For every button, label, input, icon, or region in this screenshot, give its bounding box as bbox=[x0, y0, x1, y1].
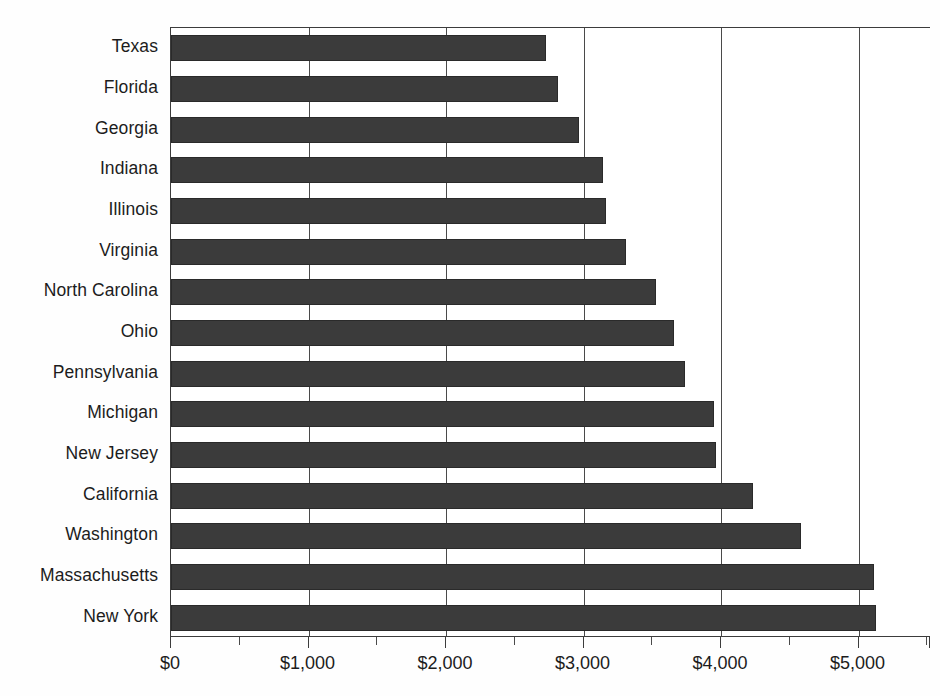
y-axis-label: Virginia bbox=[0, 242, 158, 260]
bar bbox=[171, 117, 579, 143]
bar bbox=[171, 76, 558, 102]
y-axis-label: Massachusetts bbox=[0, 567, 158, 585]
y-axis-label: Indiana bbox=[0, 160, 158, 178]
bar bbox=[171, 401, 714, 427]
bar bbox=[171, 239, 626, 265]
x-axis-label: $4,000 bbox=[692, 654, 747, 672]
y-axis-label: Georgia bbox=[0, 120, 158, 138]
bar bbox=[171, 320, 674, 346]
y-axis-label: Texas bbox=[0, 38, 158, 56]
y-axis-label: California bbox=[0, 486, 158, 504]
x-axis-label: $0 bbox=[160, 654, 180, 672]
y-axis-label: Pennsylvania bbox=[0, 364, 158, 382]
y-axis-label: Michigan bbox=[0, 404, 158, 422]
y-axis-label: Florida bbox=[0, 79, 158, 97]
x-tick-major bbox=[720, 637, 721, 648]
x-tick-minor bbox=[239, 637, 240, 645]
x-tick-major bbox=[445, 637, 446, 648]
bar bbox=[171, 564, 874, 590]
y-axis-label: Ohio bbox=[0, 323, 158, 341]
bar bbox=[171, 483, 753, 509]
x-tick-minor bbox=[926, 637, 927, 645]
y-axis-label-group: TexasFloridaGeorgiaIndianaIllinoisVirgin… bbox=[0, 27, 158, 637]
x-axis: $0$1,000$2,000$3,000$4,000$5,000 bbox=[170, 637, 930, 696]
x-tick-minor bbox=[514, 637, 515, 645]
x-tick-minor bbox=[789, 637, 790, 645]
bar bbox=[171, 361, 685, 387]
y-axis-label: Washington bbox=[0, 526, 158, 544]
bar bbox=[171, 198, 606, 224]
bar bbox=[171, 442, 716, 468]
bar bbox=[171, 35, 546, 61]
x-axis-label: $3,000 bbox=[555, 654, 610, 672]
y-axis-label: North Carolina bbox=[0, 282, 158, 300]
bar-chart: TexasFloridaGeorgiaIndianaIllinoisVirgin… bbox=[0, 0, 940, 696]
bar-series bbox=[171, 28, 930, 636]
y-axis-label: New Jersey bbox=[0, 445, 158, 463]
bar bbox=[171, 279, 656, 305]
y-axis-label: New York bbox=[0, 608, 158, 626]
x-axis-label: $1,000 bbox=[280, 654, 335, 672]
x-axis-label: $5,000 bbox=[830, 654, 885, 672]
x-tick-minor bbox=[376, 637, 377, 645]
x-tick-major bbox=[308, 637, 309, 648]
bar bbox=[171, 605, 876, 631]
x-tick-major bbox=[170, 637, 171, 648]
x-axis-label: $2,000 bbox=[417, 654, 472, 672]
x-tick-minor bbox=[651, 637, 652, 645]
y-axis-label: Illinois bbox=[0, 201, 158, 219]
bar bbox=[171, 523, 801, 549]
plot-area bbox=[170, 27, 930, 637]
bar bbox=[171, 157, 603, 183]
x-tick-major bbox=[583, 637, 584, 648]
axis-end-cap bbox=[929, 637, 930, 648]
x-tick-major bbox=[858, 637, 859, 648]
